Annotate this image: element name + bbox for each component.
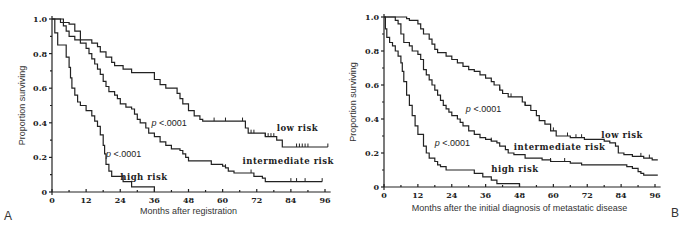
p-value-annotation: p <.0001	[151, 118, 187, 128]
x-tick-label: 72	[582, 190, 593, 200]
label-high-risk: high risk	[120, 172, 168, 182]
survival-charts: 0122436486072849600.20.40.60.81.0Months …	[0, 0, 691, 230]
y-tick-label: 0.6	[33, 83, 47, 93]
x-tick-label: 12	[81, 195, 92, 205]
panel-letter: A	[4, 209, 12, 223]
p-value-annotation: p <.0001	[434, 138, 470, 148]
x-tick-label: 36	[480, 190, 492, 200]
panel-a: 0122436486072849600.20.40.60.81.0Months …	[4, 14, 335, 223]
x-tick-label: 36	[149, 195, 161, 205]
y-tick-label: 0.4	[365, 114, 379, 124]
x-tick-label: 84	[616, 190, 628, 200]
y-tick-label: 0.2	[33, 152, 47, 162]
y-tick-label: 0.4	[33, 118, 47, 128]
p-value-annotation: p <.0001	[465, 104, 501, 114]
y-tick-label: 0	[373, 182, 379, 192]
y-tick-label: 1.0	[365, 12, 379, 22]
y-axis-title: Proportion surviving	[348, 62, 358, 142]
curve-high-risk	[52, 19, 154, 192]
label-intermediate-risk: intermediate risk	[243, 156, 335, 166]
x-axis-title: Months after the initial diagnosis of me…	[412, 203, 628, 213]
y-tick-label: 0.8	[33, 49, 47, 59]
x-tick-label: 96	[319, 195, 331, 205]
x-tick-label: 48	[514, 190, 526, 200]
y-tick-label: 0.2	[365, 148, 379, 158]
x-tick-label: 48	[183, 195, 195, 205]
y-axis-title: Proportion surviving	[17, 66, 27, 146]
label-high-risk: high risk	[491, 164, 539, 174]
x-tick-label: 0	[49, 195, 55, 205]
x-tick-label: 12	[412, 190, 423, 200]
label-low-risk: low risk	[601, 130, 643, 140]
x-tick-label: 0	[381, 190, 387, 200]
x-tick-label: 84	[285, 195, 297, 205]
x-tick-label: 60	[548, 190, 560, 200]
p-value-annotation: p <.0001	[105, 149, 141, 159]
x-tick-label: 96	[649, 190, 661, 200]
x-tick-label: 72	[251, 195, 262, 205]
panel-letter: B	[671, 206, 679, 220]
label-intermediate-risk: intermediate risk	[514, 142, 606, 152]
x-tick-label: 24	[115, 195, 127, 205]
x-tick-label: 60	[217, 195, 229, 205]
y-tick-label: 0.6	[365, 80, 379, 90]
x-tick-label: 24	[446, 190, 458, 200]
panel-b: 0122436486072849600.20.40.60.81.0Months …	[348, 12, 679, 220]
y-tick-label: 0	[41, 187, 47, 197]
label-low-risk: low risk	[277, 123, 319, 133]
y-tick-label: 1.0	[33, 14, 47, 24]
y-tick-label: 0.8	[365, 46, 379, 56]
x-axis-title: Months after registration	[140, 206, 237, 216]
